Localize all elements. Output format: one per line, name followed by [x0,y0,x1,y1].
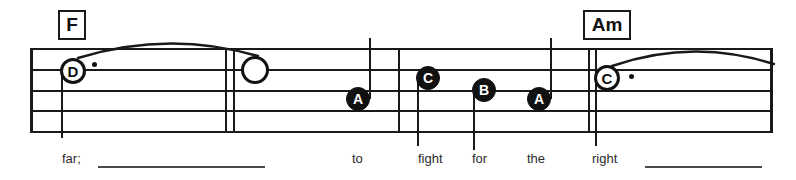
note-d-half-dotted-augmentation-dot [92,62,97,67]
measure-barline-3a [588,48,590,133]
note-blank-half [241,56,269,84]
note-a-quarter-1-stem [369,38,371,99]
note-a-quarter-2: A [527,87,551,111]
measure-barline-1b [233,48,235,133]
lyric-word-to: to [352,152,363,165]
slur-f-phrase [78,40,258,58]
staff-line-4 [30,110,772,112]
staff-line-2 [30,69,772,71]
note-d-half-dotted-stem [61,71,63,138]
lyric-word-fight: fight [418,152,443,165]
note-c-half-dotted-augmentation-dot [629,74,634,79]
lyric-word-far: far; [62,152,81,165]
note-c-half-dotted-stem [595,78,597,146]
music-staff-sheet: FAm DACBAC far;tofightfortheright [0,0,796,180]
note-a-quarter-2-stem [550,38,552,99]
note-b-quarter: B [472,78,496,102]
staff-layer [0,0,796,180]
measure-barline-1a [225,48,227,133]
lyric-word-for: for [472,152,487,165]
note-a-quarter-1: A [346,87,370,111]
staff-line-5 [30,131,772,133]
note-b-quarter-stem [473,90,475,150]
lyric-extension-right [645,166,762,168]
note-c-half-dotted: C [594,65,620,91]
note-c-quarter: C [416,66,440,90]
measure-barline-2 [398,48,400,133]
staff-line-3 [30,90,772,92]
staff-start-barline [30,48,33,133]
note-d-half-dotted: D [60,58,86,84]
note-c-quarter-stem [417,78,419,146]
slur-am-phrase [612,48,774,66]
lyric-extension-far [98,166,265,168]
lyric-word-the: the [527,152,545,165]
lyric-word-right: right [592,152,617,165]
